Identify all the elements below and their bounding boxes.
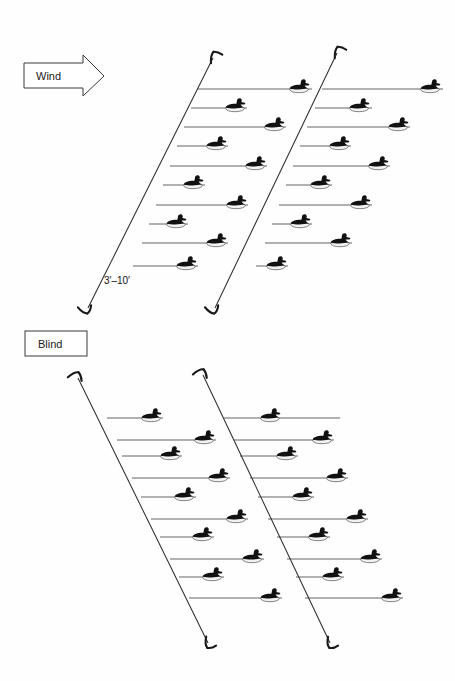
wind-arrow-label: Wind — [36, 70, 61, 82]
lower-spread-decoys — [142, 408, 402, 601]
lower-spread — [68, 366, 403, 651]
wind-arrow: Wind — [24, 55, 104, 96]
decoy-spread-diagram: Wind Blind — [0, 0, 455, 681]
blind-box-label: Blind — [38, 338, 62, 350]
diagram-canvas: Wind Blind — [0, 0, 455, 681]
upper-right-rows — [256, 89, 443, 266]
lower-right-rows — [224, 418, 403, 598]
blind-box: Blind — [25, 331, 87, 356]
lower-left-spine — [68, 369, 218, 651]
lower-right-spine — [193, 366, 340, 651]
lower-left-rows — [107, 418, 282, 598]
upper-spread: 3′–10′ — [78, 44, 443, 316]
spacing-label: 3′–10′ — [104, 275, 130, 286]
